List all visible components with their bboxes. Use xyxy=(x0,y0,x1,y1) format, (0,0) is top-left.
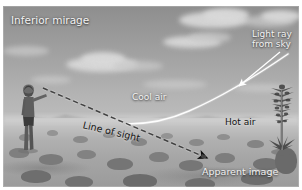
light-ray-path xyxy=(127,54,288,124)
light-ray-label-line2: from sky xyxy=(252,40,292,50)
apparent-image-label: Apparent image xyxy=(202,167,278,177)
desert-photograph: Inferior mirage Light ray from sky Cool … xyxy=(3,6,299,187)
figure-title: Inferior mirage xyxy=(11,15,89,26)
light-ray-label: Light ray from sky xyxy=(252,30,292,49)
line-of-sight-highlight xyxy=(43,88,207,158)
light-ray-path-glow xyxy=(127,54,288,124)
inferior-mirage-figure: Inferior mirage Light ray from sky Cool … xyxy=(0,0,302,190)
hot-air-label: Hot air xyxy=(225,118,255,128)
light-ray-leader-arrow xyxy=(239,52,280,86)
cool-air-label: Cool air xyxy=(132,93,166,103)
